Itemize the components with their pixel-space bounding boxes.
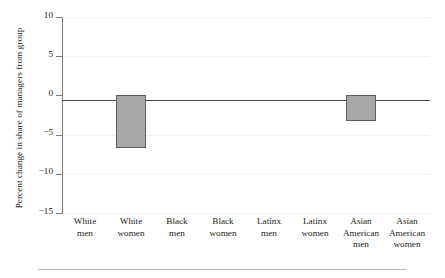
x-axis-label: Latinxmen [246,216,292,262]
x-axis-label: Blackmen [154,216,200,262]
x-axis-label-line: men [338,239,384,251]
bar-chart-figure: Percent change in share of managers from… [0,0,445,278]
x-axis-label-line: Black [200,216,246,228]
y-tick-label: 5 [48,50,53,59]
x-axis-label: Latinxwomen [292,216,338,262]
x-axis-label: AsianAmericanwomen [384,216,430,262]
y-tick-label: −5 [43,128,53,137]
y-axis-title: Percent change in share of managers from… [14,18,24,218]
x-axis-label-line: Asian [384,216,430,228]
x-axis-label-line: Black [154,216,200,228]
y-tick-mark [56,135,62,136]
x-axis-label: Blackwomen [200,216,246,262]
x-axis-label: Whitewomen [108,216,154,262]
bottom-divider-rule [38,269,406,270]
x-axis-label: Whitemen [62,216,108,262]
x-axis-label-line: White [108,216,154,228]
y-tick-label: −10 [39,167,53,176]
x-axis-label-line: women [200,228,246,240]
y-tick-mark [56,17,62,18]
y-tick: 5 [0,56,62,57]
y-tick-mark [56,213,62,214]
y-tick: 10 [0,17,62,18]
y-tick-label: −15 [39,207,53,216]
bar [116,95,146,148]
gridline [63,213,430,214]
x-axis-label-line: Asian [338,216,384,228]
y-tick-label: 0 [48,89,53,98]
x-axis-label-line: White [62,216,108,228]
bar [346,95,376,121]
x-axis-label-line: Latinx [246,216,292,228]
gridline [63,56,430,57]
x-axis-label-line: men [246,228,292,240]
y-tick: −10 [0,174,62,175]
x-axis-category-labels: WhitemenWhitewomenBlackmenBlackwomenLati… [62,216,430,262]
x-axis-label-line: women [108,228,154,240]
gridline [63,174,430,175]
y-tick-mark [56,95,62,96]
y-tick-label: 10 [44,11,53,20]
x-axis-label-line: women [292,228,338,240]
x-axis-label-line: Latinx [292,216,338,228]
y-tick-mark [56,56,62,57]
x-axis-label-line: women [384,239,430,251]
x-axis-label-line: men [154,228,200,240]
y-tick: −15 [0,213,62,214]
x-axis-label: AsianAmericanmen [338,216,384,262]
x-axis-label-line: American [338,228,384,240]
y-tick-mark [56,174,62,175]
y-tick: 0 [0,95,62,96]
gridline [63,17,430,18]
y-tick: −5 [0,135,62,136]
x-axis-label-line: American [384,228,430,240]
x-axis-label-line: men [62,228,108,240]
